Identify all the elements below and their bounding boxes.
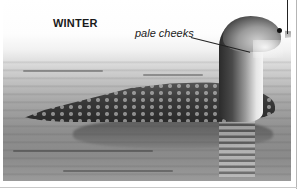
callout-pale-cheeks: pale cheeks xyxy=(135,27,194,39)
page-rule-horizontal xyxy=(0,187,297,188)
ripple xyxy=(63,170,173,172)
ripple xyxy=(13,150,153,152)
bird-eye xyxy=(277,28,282,33)
top-leader-line xyxy=(287,0,288,34)
pale-cheek-area xyxy=(253,40,283,58)
neck-reflection xyxy=(219,120,255,178)
ripple xyxy=(143,74,203,76)
ripple xyxy=(23,70,103,72)
season-heading: WINTER xyxy=(53,17,98,29)
page-rule-vertical xyxy=(296,0,297,189)
